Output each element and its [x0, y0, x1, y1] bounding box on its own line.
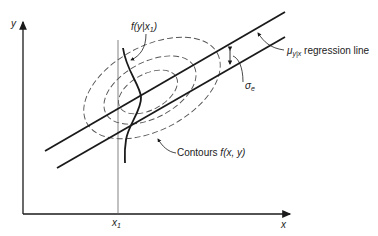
regression-label: μy|x regression line	[286, 45, 370, 58]
contours-label: Contours f(x, y)	[177, 147, 245, 158]
conditional-leader	[131, 34, 146, 60]
sigma-leader	[233, 56, 243, 82]
sigma-label: σe	[245, 80, 255, 92]
x1-label: x1	[111, 217, 121, 229]
contours-leader	[158, 139, 176, 153]
conditional-label: f(y|x1)	[131, 21, 157, 33]
regression-leader	[258, 33, 284, 50]
x-axis-label: x	[280, 219, 287, 230]
regression-diagram: y x x1 f(y|x1) σe μy|x regression line C…	[0, 0, 378, 236]
conditional-density-curve	[123, 48, 141, 163]
y-axis-label: y	[10, 18, 17, 29]
regression-line-lower	[57, 37, 285, 168]
